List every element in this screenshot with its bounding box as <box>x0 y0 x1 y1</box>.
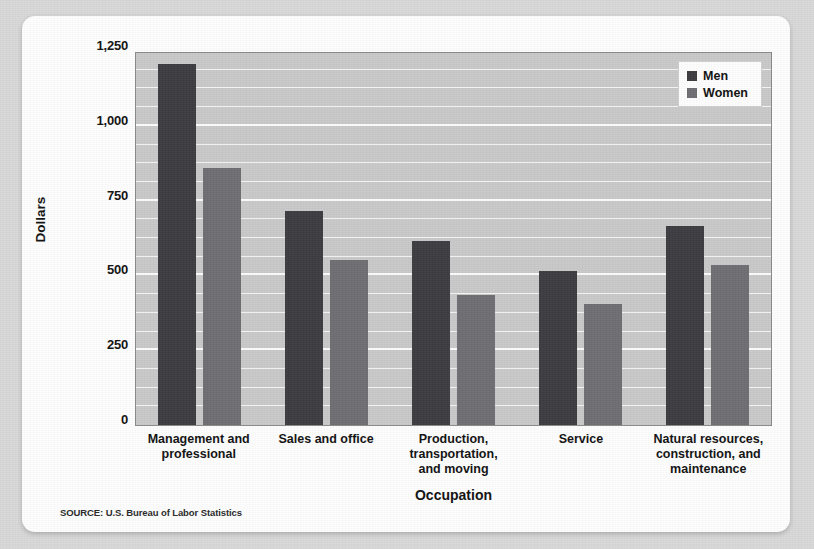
bar-group <box>136 53 263 425</box>
y-axis-tick-labels: 02505007501,0001,250 <box>62 52 128 426</box>
bar-men <box>285 211 323 425</box>
source-note: SOURCE: U.S. Bureau of Labor Statistics <box>60 507 242 518</box>
gridline-major <box>136 49 771 51</box>
chart-legend: MenWomen <box>678 61 762 107</box>
bar-women <box>203 168 241 425</box>
x-tick-label-line: Natural resources, <box>647 432 770 447</box>
figure-card: Dollars 02505007501,0001,250 MenWomen Ma… <box>22 16 790 532</box>
y-tick-label: 1,000 <box>96 112 128 127</box>
y-axis-title: Dollars <box>33 165 48 275</box>
x-tick-label: Management andprofessional <box>135 432 262 477</box>
legend-swatch-icon <box>687 88 697 98</box>
legend-entry: Men <box>687 67 748 84</box>
bar-women <box>711 265 749 425</box>
bar-women <box>330 260 368 425</box>
plot-area: MenWomen <box>135 52 772 426</box>
bar-men <box>412 241 450 425</box>
x-tick-label-line: professional <box>137 447 260 462</box>
x-tick-label-line: and moving <box>392 462 515 477</box>
bar-men <box>539 271 577 425</box>
bar-groups <box>136 53 771 425</box>
x-tick-label: Service <box>517 432 644 477</box>
legend-label: Men <box>703 69 728 83</box>
bar-group <box>517 53 644 425</box>
bar-women <box>584 304 622 425</box>
scanned-page-background: Dollars 02505007501,0001,250 MenWomen Ma… <box>0 0 814 549</box>
y-tick-label: 500 <box>107 262 128 277</box>
legend-swatch-icon <box>687 71 697 81</box>
bar-women <box>457 295 495 425</box>
legend-label: Women <box>703 86 748 100</box>
x-tick-label-line: Production, <box>392 432 515 447</box>
x-tick-label: Production,transportation,and moving <box>390 432 517 477</box>
legend-entry: Women <box>687 84 748 101</box>
bar-group <box>263 53 390 425</box>
x-axis-title: Occupation <box>135 487 772 503</box>
x-tick-label: Natural resources,construction, andmaint… <box>645 432 772 477</box>
x-tick-label-line: construction, and <box>647 447 770 462</box>
bar-group <box>390 53 517 425</box>
x-tick-label-line: Service <box>519 432 642 447</box>
y-tick-label: 1,250 <box>96 38 128 53</box>
bar-men <box>666 226 704 425</box>
x-axis-tick-labels: Management andprofessionalSales and offi… <box>135 432 772 477</box>
y-tick-label: 0 <box>121 412 128 427</box>
x-tick-label: Sales and office <box>262 432 389 477</box>
x-tick-label-line: Sales and office <box>264 432 387 447</box>
x-tick-label-line: transportation, <box>392 447 515 462</box>
bar-men <box>158 64 196 425</box>
y-tick-label: 750 <box>107 187 128 202</box>
y-tick-label: 250 <box>107 337 128 352</box>
x-tick-label-line: Management and <box>137 432 260 447</box>
bar-group <box>644 53 771 425</box>
x-tick-label-line: maintenance <box>647 462 770 477</box>
